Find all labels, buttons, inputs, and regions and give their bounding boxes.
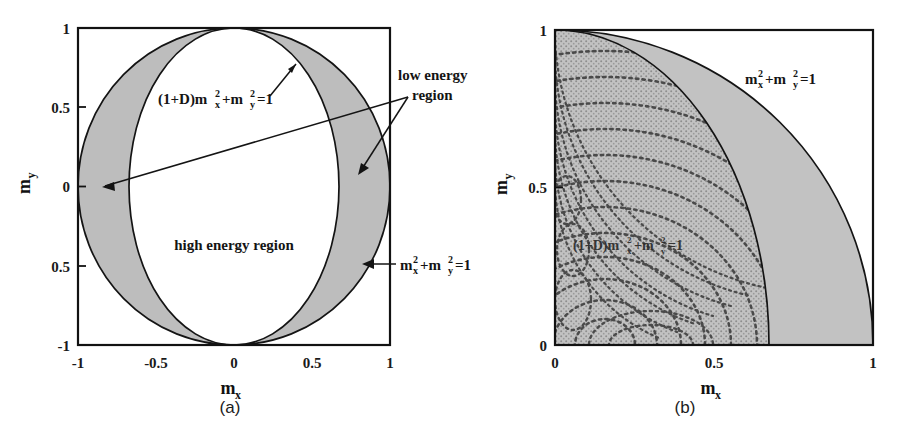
- panel-b-ylabel-sub: y: [501, 174, 515, 180]
- panel-a-ytick-neg05: 0.5: [51, 259, 70, 275]
- panel-b-ellipse-eq-sub-y: y: [661, 246, 666, 256]
- panel-a-ylabel-sub: y: [24, 173, 38, 179]
- panel-b-circle-eq-sup-2b: 2: [793, 68, 798, 79]
- ellipse-eq-sup-2b: 2: [250, 88, 255, 99]
- ellipse-eq-sup-2a: 2: [215, 88, 220, 99]
- panel-b-xtick-1: 1: [869, 355, 877, 371]
- ellipse-eq-part0: (1+D)m: [158, 91, 208, 108]
- panel-a-y-ticks: [78, 28, 86, 345]
- panel-b: 1 0.5 0 m y 0 0.5 1 m x m x 2 +m: [455, 0, 915, 444]
- circle-eq-sup-2a: 2: [413, 254, 418, 265]
- panel-a-ytick-neg1: -1: [58, 338, 71, 354]
- ellipse-eq-part6: =1: [257, 91, 273, 107]
- panel-a-ytick-0: 0: [63, 179, 71, 195]
- panel-a-xlabel-base: m: [221, 378, 236, 398]
- panel-a-ellipse-equation: (1+D)m x 2 +m y 2 =1: [158, 88, 273, 110]
- panel-b-ellipse-eq-sub-x: x: [627, 246, 632, 256]
- panel-b-xtick-0: 0: [551, 355, 559, 371]
- circle-eq-part3: +m: [420, 257, 442, 273]
- panel-b-ellipse-eq-sup-2b: 2: [661, 235, 666, 245]
- ellipse-eq-sub-y: y: [250, 99, 255, 110]
- ellipse-curve: [129, 28, 339, 345]
- panel-a-ylabel: m y: [14, 173, 38, 195]
- panel-b-ylabel-base: m: [491, 180, 511, 195]
- panel-a-xtick-1: 1: [386, 355, 394, 371]
- panel-b-circle-eq-sub-x: x: [758, 79, 763, 90]
- panel-b-circle-equation: m x 2 +m y 2 =1: [745, 68, 816, 90]
- panel-a-xtick-0: 0: [230, 355, 238, 371]
- circle-eq-part0: m: [400, 257, 413, 273]
- circle-eq-sub-x: x: [413, 265, 418, 276]
- panel-b-circle-eq-part6: =1: [800, 71, 816, 87]
- panel-b-circle-eq-sub-y: y: [793, 79, 798, 90]
- ellipse-eq-part3: +m: [222, 91, 244, 107]
- panel-a: 1 0.5 0 0.5 -1 m y -1 -0.5 0 0.5 1 m x: [0, 0, 460, 444]
- ellipse-eq-sub-x: x: [215, 99, 220, 110]
- panel-b-ellipse-eq-part3: +m: [634, 238, 654, 253]
- panel-b-ytick-1: 1: [540, 23, 548, 39]
- panel-a-xtick-neg05: -0.5: [144, 355, 168, 371]
- panel-a-xtick-05: 0.5: [303, 355, 322, 371]
- panel-b-ylabel: m y: [491, 174, 515, 196]
- panel-a-ytick-1: 1: [63, 21, 71, 37]
- figure-root: 1 0.5 0 0.5 -1 m y -1 -0.5 0 0.5 1 m x: [0, 0, 915, 444]
- panel-b-ytick-05: 0.5: [528, 180, 547, 196]
- panel-b-ellipse-eq-sup-2a: 2: [627, 235, 632, 245]
- panel-b-circle-eq-part0: m: [745, 71, 758, 87]
- circle-eq-sub-y: y: [448, 265, 453, 276]
- panel-a-ytick-05: 0.5: [51, 100, 70, 116]
- panel-b-ellipse-eq-part6: =1: [668, 238, 683, 253]
- panel-a-plot: 1 0.5 0 0.5 -1 m y -1 -0.5 0 0.5 1 m x: [0, 0, 460, 400]
- panel-b-xtick-05: 0.5: [705, 355, 724, 371]
- panel-a-ylabel-base: m: [14, 179, 34, 194]
- panel-b-xlabel-base: m: [701, 378, 716, 398]
- panel-b-circle-eq-part3: +m: [765, 71, 787, 87]
- low-energy-shading: [78, 28, 390, 345]
- panel-b-circle-eq-sup-2a: 2: [758, 68, 763, 79]
- ellipse-equation-leader: [270, 64, 296, 96]
- circle-eq-sup-2b: 2: [448, 254, 453, 265]
- panel-b-caption: (b): [455, 398, 915, 418]
- low-energy-line2: region: [412, 87, 453, 103]
- panel-b-ellipse-eq-part0: (1+D)m: [573, 238, 619, 254]
- panel-b-ytick-0: 0: [540, 338, 548, 354]
- panel-a-high-energy-label: high energy region: [174, 237, 294, 253]
- panel-a-caption: (a): [0, 398, 460, 418]
- panel-a-xtick-neg1: -1: [72, 355, 85, 371]
- panel-b-plot: 1 0.5 0 m y 0 0.5 1 m x m x 2 +m: [455, 0, 915, 400]
